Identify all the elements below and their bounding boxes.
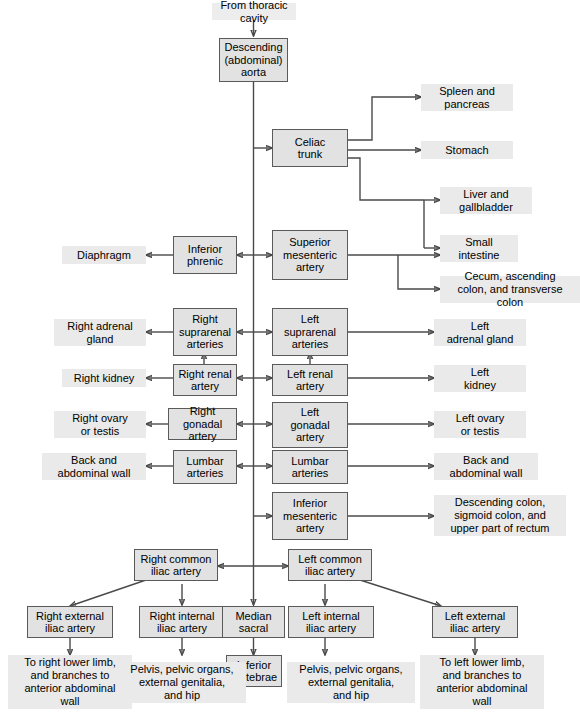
node-right-renal-artery[interactable]: Right renal artery [173,364,237,396]
node-inferior-mesenteric-artery[interactable]: Inferior mesenteric artery [272,492,348,540]
node-median-sacral[interactable]: Median sacral [222,606,285,638]
node-right-common-iliac-artery[interactable]: Right common iliac artery [134,549,218,581]
target-stomach: Stomach [421,141,513,159]
target-diaphragm: Diaphragm [62,246,146,264]
target-left-back-and-abdominal-wall: Back and abdominal wall [434,453,538,480]
target-right-lower-limb: To right lower limb, and branches to ant… [8,655,132,709]
target-left-pelvis-organs: Pelvis, pelvic organs, external genitali… [287,662,415,703]
node-right-gonadal-artery[interactable]: Right gonadal artery [168,408,237,440]
target-left-ovary-or-testis: Left ovary or testis [434,411,526,438]
node-left-external-iliac-artery[interactable]: Left external iliac artery [432,606,518,638]
abdominal-aorta-flowchart: From thoracic cavity Descending (abdomin… [0,0,580,714]
node-descending-aorta[interactable]: Descending (abdominal) aorta [219,38,288,82]
node-left-common-iliac-artery[interactable]: Left common iliac artery [288,549,372,581]
target-right-adrenal-gland: Right adrenal gland [54,319,146,346]
node-left-suprarenal-arteries[interactable]: Left suprarenal arteries [272,308,348,356]
target-right-back-and-abdominal-wall: Back and abdominal wall [42,453,146,480]
target-descending-sigmoid-rectum: Descending colon, sigmoid colon, and upp… [434,495,566,536]
target-cecum-ascending-transverse-colon: Cecum, ascending colon, and transverse c… [440,276,580,303]
target-liver-and-gallbladder: Liver and gallbladder [440,187,532,214]
target-left-lower-limb: To left lower limb, and branches to ante… [420,655,544,709]
node-left-lumbar-arteries[interactable]: Lumbar arteries [272,450,348,484]
node-right-lumbar-arteries[interactable]: Lumbar arteries [173,450,237,484]
node-left-gonadal-artery[interactable]: Left gonadal artery [272,402,348,448]
target-right-kidney: Right kidney [62,369,146,387]
node-inferior-phrenic[interactable]: Inferior phrenic [173,236,237,274]
target-spleen-and-pancreas: Spleen and pancreas [421,84,513,111]
node-left-renal-artery[interactable]: Left renal artery [272,364,348,396]
node-right-suprarenal-arteries[interactable]: Right suprarenal arteries [173,308,237,356]
node-celiac-trunk[interactable]: Celiac trunk [272,129,348,167]
source-label-from-thoracic-cavity: From thoracic cavity [212,3,296,20]
node-right-external-iliac-artery[interactable]: Right external iliac artery [27,606,113,638]
target-right-ovary-or-testis: Right ovary or testis [54,411,146,438]
target-small-intestine: Small intestine [440,235,518,262]
node-right-internal-iliac-artery[interactable]: Right internal iliac artery [139,606,225,638]
node-superior-mesenteric-artery[interactable]: Superior mesenteric artery [272,230,348,280]
node-left-internal-iliac-artery[interactable]: Left internal iliac artery [288,606,374,638]
target-right-pelvis-organs: Pelvis, pelvic organs, external genitali… [118,662,246,703]
target-left-adrenal-gland: Left adrenal gland [434,319,526,346]
target-left-kidney: Left kidney [434,365,526,392]
